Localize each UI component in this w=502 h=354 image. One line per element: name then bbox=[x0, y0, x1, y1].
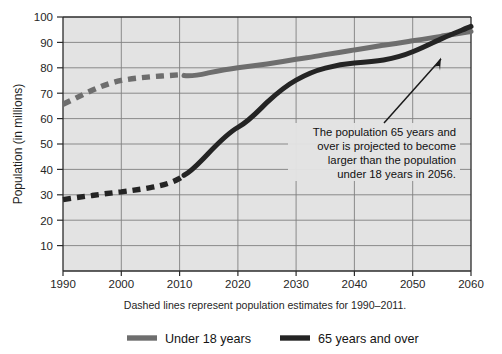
legend-label-under-18: Under 18 years bbox=[165, 332, 251, 346]
y-tick-label-30: 30 bbox=[40, 189, 53, 201]
x-tick-label-2040: 2040 bbox=[342, 278, 368, 290]
y-tick-label-40: 40 bbox=[40, 164, 53, 176]
crossover-annotation: The population 65 years and over is proj… bbox=[288, 123, 460, 181]
annotation-line-2: over is projected to become bbox=[317, 140, 456, 152]
population-projection-chart: 100 90 80 70 60 50 40 30 20 10 1990 2000… bbox=[0, 0, 502, 354]
y-tick-label-20: 20 bbox=[40, 215, 53, 227]
x-tick-label-2060: 2060 bbox=[458, 278, 484, 290]
x-tick-label-1990: 1990 bbox=[50, 278, 76, 290]
y-tick-labels: 100 90 80 70 60 50 40 30 20 10 bbox=[34, 11, 53, 252]
y-tick-label-80: 80 bbox=[40, 62, 53, 74]
y-tick-label-10: 10 bbox=[40, 240, 53, 252]
x-tick-label-2010: 2010 bbox=[167, 278, 193, 290]
y-tick-label-100: 100 bbox=[34, 11, 53, 23]
x-tick-label-2020: 2020 bbox=[225, 278, 251, 290]
x-tick-label-2050: 2050 bbox=[400, 278, 426, 290]
y-tick-marks bbox=[57, 17, 63, 246]
annotation-line-4: under 18 years in 2056. bbox=[337, 168, 456, 180]
annotation-line-3: larger than the population bbox=[328, 154, 456, 166]
chart-svg: 100 90 80 70 60 50 40 30 20 10 1990 2000… bbox=[0, 0, 502, 354]
chart-legend: Under 18 years 65 years and over bbox=[127, 332, 419, 346]
y-tick-label-90: 90 bbox=[40, 37, 53, 49]
x-tick-label-2030: 2030 bbox=[283, 278, 309, 290]
x-tick-label-2000: 2000 bbox=[109, 278, 135, 290]
y-tick-label-50: 50 bbox=[40, 138, 53, 150]
legend-label-65-plus: 65 years and over bbox=[318, 332, 419, 346]
annotation-line-1: The population 65 years and bbox=[313, 126, 456, 138]
chart-footnote: Dashed lines represent population estima… bbox=[124, 299, 407, 311]
x-tick-marks bbox=[63, 271, 471, 276]
x-tick-labels: 1990 2000 2010 2020 2030 2040 2050 2060 bbox=[50, 278, 484, 290]
y-axis-title: Population (in millions) bbox=[11, 84, 25, 205]
y-tick-label-70: 70 bbox=[40, 88, 53, 100]
y-tick-label-60: 60 bbox=[40, 113, 53, 125]
